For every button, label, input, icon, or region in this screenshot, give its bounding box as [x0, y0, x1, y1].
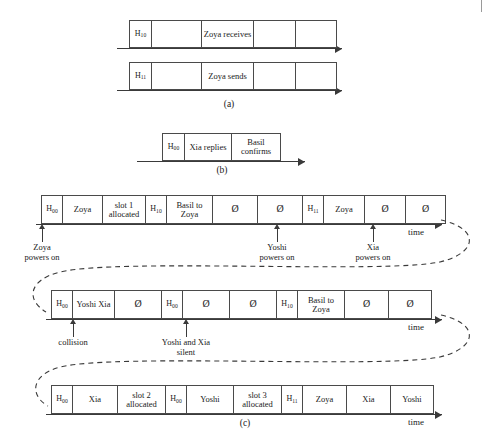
frame-cells: H10 Zoya receives: [129, 20, 337, 48]
frame-null-cell: Ø: [257, 195, 302, 224]
frame-header-cell: H00: [165, 385, 186, 414]
frame-slot-cell: slot 3 allocated: [233, 385, 281, 414]
annotation-line-2: powers on: [242, 253, 312, 263]
frame-header-cell: H10: [145, 195, 166, 224]
frame-header-cell: H10: [276, 290, 297, 319]
frame-slot-cell: [295, 20, 337, 48]
frame-slot-cell: Xia: [72, 385, 117, 414]
frame-header-cell: H00: [162, 133, 184, 161]
frame-slot-cell: [151, 20, 201, 48]
panel-c-row-3: H00 Xia slot 2 allocated H00 Yoshi slot …: [46, 381, 442, 415]
time-axis-label: time: [408, 417, 424, 427]
time-axis: [117, 48, 342, 49]
frame-null-cell: Ø: [388, 290, 432, 319]
frame-cells: H11 Zoya sends: [129, 62, 337, 90]
frame-null-cell: Ø: [182, 290, 229, 319]
arrow-stem: [186, 323, 187, 337]
frame-slot-cell: slot 2 allocated: [117, 385, 165, 414]
panel-a-caption: (a): [209, 99, 249, 109]
frame-header-cell: H10: [129, 20, 151, 48]
annotation-collision: collision: [45, 319, 101, 348]
arrow-stem: [373, 228, 374, 242]
frame-slot-cell: Basil confirms: [231, 133, 281, 161]
frame-slot-cell: Yoshi: [390, 385, 434, 414]
frame-null-cell: Ø: [344, 290, 388, 319]
frame-slot-cell: [253, 20, 295, 48]
frame-slot-cell: Basil to Zoya: [166, 195, 212, 224]
panel-a-row-2: H11 Zoya sends: [117, 57, 342, 91]
time-axis-label: time: [408, 227, 424, 237]
annotation-xia-powers-on: Xia powers on: [340, 224, 406, 262]
panel-c-row-2: H00 Yoshi Xia Ø H00 Ø Ø H10 Basil to Zoy…: [46, 286, 442, 320]
annotation-line-1: collision: [45, 338, 101, 348]
frame-slot-cell: [151, 62, 201, 90]
frame-slot-cell: [253, 62, 295, 90]
frame-slot-cell: Xia replies: [184, 133, 231, 161]
frame-header-cell: H00: [161, 290, 182, 319]
annotation-line-2: silent: [148, 348, 224, 358]
panel-b-row-1: H00 Xia replies Basil confirms: [137, 128, 305, 162]
frame-cells: H00 Yoshi Xia Ø H00 Ø Ø H10 Basil to Zoy…: [51, 290, 432, 319]
frame-slot-cell: Zoya: [323, 195, 364, 224]
frame-null-cell: Ø: [114, 290, 161, 319]
annotation-yoshi-xia-silent: Yoshi and Xia silent: [148, 319, 224, 357]
frame-null-cell: Ø: [364, 195, 405, 224]
time-axis: [46, 319, 442, 320]
frame-cells: H00 Zoya slot 1 allocated H10 Basil to Z…: [41, 195, 446, 224]
arrow-stem: [42, 228, 43, 242]
frame-slot-cell: Xia: [346, 385, 390, 414]
time-axis-arrow: [435, 316, 442, 324]
panel-c-row-1: H00 Zoya slot 1 allocated H10 Basil to Z…: [36, 191, 442, 225]
frame-cells: H00 Xia replies Basil confirms: [162, 133, 281, 161]
time-axis: [46, 414, 442, 415]
time-axis-arrow: [435, 411, 442, 419]
annotation-yoshi-powers-on: Yoshi powers on: [242, 224, 312, 262]
frame-header-cell: H11: [129, 62, 151, 90]
frame-header-cell: H11: [302, 195, 323, 224]
figure-canvas: H10 Zoya receives H11 Zoya sends (a) H00: [0, 0, 486, 440]
arrow-stem: [73, 323, 74, 337]
frame-null-cell: Ø: [212, 195, 257, 224]
time-axis-arrow: [298, 158, 305, 166]
scan-edge-mark: [481, 0, 482, 12]
arrow-stem: [277, 228, 278, 242]
frame-header-cell: H00: [51, 385, 72, 414]
frame-slot-cell: Zoya sends: [201, 62, 253, 90]
frame-slot-cell: Yoshi Xia: [72, 290, 114, 319]
frame-header-cell: H00: [51, 290, 72, 319]
frame-slot-cell: [295, 62, 337, 90]
frame-slot-cell: Basil to Zoya: [297, 290, 344, 319]
panel-a-row-1: H10 Zoya receives: [117, 15, 342, 49]
frame-slot-cell: Yoshi: [186, 385, 233, 414]
time-axis: [117, 90, 342, 91]
annotation-line-2: powers on: [10, 253, 74, 263]
frame-cells: H00 Xia slot 2 allocated H00 Yoshi slot …: [51, 385, 434, 414]
annotation-zoya-powers-on: Zoya powers on: [10, 224, 74, 262]
time-axis-label: time: [408, 322, 424, 332]
frame-header-cell: H11: [281, 385, 302, 414]
frame-slot-cell: Zoya: [62, 195, 102, 224]
frame-null-cell: Ø: [229, 290, 276, 319]
panel-b-caption: (b): [202, 165, 242, 175]
frame-null-cell: Ø: [405, 195, 446, 224]
panel-c-caption: (c): [225, 418, 265, 428]
frame-slot-cell: Zoya: [302, 385, 346, 414]
annotation-line-2: powers on: [340, 253, 406, 263]
time-axis: [137, 161, 305, 162]
frame-header-cell: H00: [41, 195, 62, 224]
frame-slot-cell: slot 1 allocated: [102, 195, 145, 224]
frame-slot-cell: Zoya receives: [201, 20, 253, 48]
